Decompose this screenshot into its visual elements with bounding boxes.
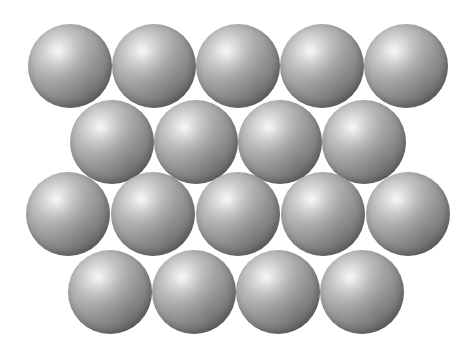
sphere-s4-2 xyxy=(152,250,236,334)
sphere-s4-3 xyxy=(236,250,320,334)
sphere-s3-2 xyxy=(111,172,195,256)
sphere-s4-1 xyxy=(68,250,152,334)
sphere-s3-4 xyxy=(281,172,365,256)
sphere-s2-3 xyxy=(238,100,322,184)
sphere-s3-5 xyxy=(366,172,450,256)
sphere-s2-4 xyxy=(322,100,406,184)
sphere-s1-4 xyxy=(280,24,364,108)
sphere-s1-5 xyxy=(364,24,448,108)
sphere-s3-3 xyxy=(196,172,280,256)
sphere-s1-3 xyxy=(196,24,280,108)
sphere-s2-2 xyxy=(154,100,238,184)
sphere-s1-1 xyxy=(28,24,112,108)
sphere-s2-1 xyxy=(70,100,154,184)
sphere-s4-4 xyxy=(320,250,404,334)
figure-canvas xyxy=(0,0,471,355)
sphere-s1-2 xyxy=(112,24,196,108)
sphere-s3-1 xyxy=(26,172,110,256)
